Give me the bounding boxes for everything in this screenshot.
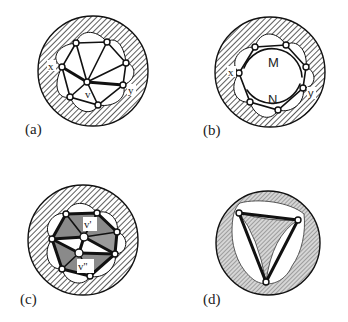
vertex-label-y: y — [308, 87, 314, 99]
panel-d — [216, 191, 320, 295]
vertex-label-y: y — [128, 84, 134, 96]
panel-label-d: (d) — [203, 292, 221, 307]
region-label-N: N — [268, 92, 277, 107]
panel-label-b: (b) — [203, 123, 221, 138]
figure-canvas: x y v M N x y — [0, 0, 348, 322]
panel-label-a: (a) — [25, 122, 42, 137]
panel-c: v' v'' — [28, 185, 138, 295]
panel-a: x y v — [38, 16, 148, 126]
vertex-label-v-double-prime: v'' — [78, 260, 87, 272]
panel-label-c: (c) — [20, 292, 37, 307]
vertex-label-v: v — [85, 88, 91, 100]
vertex-label-x: x — [48, 60, 54, 72]
vertex-label-x: x — [228, 66, 234, 78]
vertex-label-v-prime: v' — [84, 218, 92, 230]
panel-b: M N x y — [215, 17, 325, 127]
region-label-M: M — [268, 55, 279, 70]
